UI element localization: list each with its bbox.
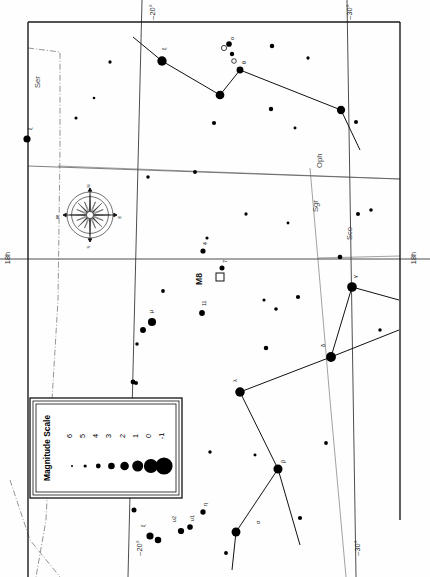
star-dot-s51[interactable] <box>205 236 208 239</box>
star-s22[interactable]: η <box>200 503 208 515</box>
star-s18[interactable]: ξ <box>140 524 154 540</box>
star-s40[interactable] <box>131 380 136 385</box>
star-dot-s32[interactable] <box>274 307 278 311</box>
star-dot-s21[interactable] <box>187 524 193 530</box>
star-dot-s47[interactable] <box>354 120 358 124</box>
star-s8[interactable]: γ <box>347 275 358 292</box>
star-s51[interactable] <box>205 236 208 239</box>
star-dot-s9[interactable] <box>326 352 336 362</box>
dso-M8[interactable]: M8 <box>194 273 224 285</box>
star-s53[interactable] <box>208 450 211 453</box>
star-dot-s29[interactable] <box>338 255 343 260</box>
star-dot-s6[interactable] <box>337 106 345 114</box>
star-s42[interactable] <box>244 212 247 215</box>
star-s24[interactable] <box>269 107 273 111</box>
star-s20[interactable]: υ2 <box>171 516 184 534</box>
star-s15[interactable]: 11 <box>199 300 207 315</box>
star-dot-s45[interactable] <box>298 516 302 520</box>
sky-map-canvas[interactable]: ξθοξγδλβσμ1147ξυ2υ1η M8 SerOphSgrSco –20… <box>0 0 430 577</box>
star-dot-s48[interactable] <box>74 116 77 119</box>
star-s17[interactable]: 7 <box>220 260 229 271</box>
star-dot-s31[interactable] <box>296 295 300 299</box>
star-s28[interactable] <box>356 212 360 216</box>
star-s48[interactable] <box>74 116 77 119</box>
star-s2[interactable] <box>216 91 225 100</box>
star-s38[interactable] <box>146 175 149 178</box>
star-s23[interactable] <box>132 508 137 513</box>
star-s41[interactable] <box>294 127 297 130</box>
star-s29[interactable] <box>338 255 343 260</box>
star-dot-s14[interactable] <box>140 327 146 333</box>
star-dot-s28[interactable] <box>356 212 360 216</box>
star-dot-s35[interactable] <box>135 342 138 345</box>
star-s43[interactable] <box>287 222 290 225</box>
star-dot-s22[interactable] <box>200 509 205 514</box>
star-s16[interactable]: 4 <box>200 242 208 254</box>
star-dot-s44[interactable] <box>324 441 328 445</box>
star-s33[interactable] <box>262 298 265 301</box>
star-dot-s11[interactable] <box>273 464 282 473</box>
star-dot-s33[interactable] <box>262 298 265 301</box>
star-dot-s23[interactable] <box>132 508 137 513</box>
star-s27[interactable] <box>306 56 309 59</box>
star-s54[interactable] <box>224 551 228 555</box>
star-s32[interactable] <box>274 307 278 311</box>
star-dot-s30[interactable] <box>264 346 269 351</box>
star-dot-s13[interactable] <box>148 318 156 326</box>
star-dot-s1[interactable] <box>157 56 166 65</box>
star-s52[interactable] <box>254 454 257 457</box>
star-dot-s19[interactable] <box>155 537 162 544</box>
star-s3[interactable]: θ <box>237 61 247 73</box>
star-s34[interactable] <box>161 289 165 293</box>
deep-sky-object-layer[interactable]: M8 <box>194 273 224 285</box>
star-s50[interactable] <box>93 97 96 100</box>
star-s13[interactable]: μ <box>148 310 156 326</box>
star-dot-s26[interactable] <box>270 44 275 49</box>
dso-symbol-M8[interactable] <box>216 273 224 281</box>
star-dot-s18[interactable] <box>146 532 153 539</box>
star-s14[interactable] <box>140 327 146 333</box>
star-dot-s24[interactable] <box>269 107 273 111</box>
star-dot-s3[interactable] <box>237 67 244 74</box>
star-dot-s37[interactable] <box>193 170 197 174</box>
star-dot-s43[interactable] <box>287 222 290 225</box>
star-dot-s25[interactable] <box>212 121 216 125</box>
star-s45[interactable] <box>298 516 302 520</box>
star-dot-s52[interactable] <box>254 454 257 457</box>
star-s5[interactable] <box>230 52 234 56</box>
star-dot-s16[interactable] <box>200 248 205 253</box>
star-s10[interactable]: λ <box>232 379 245 397</box>
star-dot-s12[interactable] <box>232 528 241 537</box>
star-s44[interactable] <box>324 441 328 445</box>
star-s26[interactable] <box>270 44 275 49</box>
star-dot-s8[interactable] <box>347 282 357 292</box>
star-s37[interactable] <box>193 170 197 174</box>
star-dot-s54[interactable] <box>224 551 228 555</box>
star-dot-s2[interactable] <box>216 91 225 100</box>
star-dot-s34[interactable] <box>161 289 165 293</box>
star-dot-s39[interactable] <box>369 208 373 212</box>
star-dot-s49[interactable] <box>108 60 111 63</box>
star-dot-s27[interactable] <box>306 56 309 59</box>
star-s1[interactable]: ξ <box>157 47 167 66</box>
star-s39[interactable] <box>369 208 373 212</box>
star-dot-s42[interactable] <box>244 212 247 215</box>
star-dot-s17[interactable] <box>220 266 225 271</box>
star-s11[interactable]: β <box>273 460 286 474</box>
star-s6[interactable] <box>337 106 345 114</box>
star-dot-s15[interactable] <box>199 310 205 316</box>
star-s35[interactable] <box>135 342 138 345</box>
star-dot-s10[interactable] <box>235 387 245 397</box>
star-dot-s40[interactable] <box>131 380 136 385</box>
star-s49[interactable] <box>108 60 111 63</box>
star-s19[interactable] <box>155 537 162 544</box>
star-s46[interactable] <box>378 328 381 331</box>
star-dot-s5[interactable] <box>230 52 234 56</box>
star-s12[interactable]: σ <box>232 520 261 536</box>
star-dot-s20[interactable] <box>178 528 184 534</box>
star-dot-s38[interactable] <box>146 175 149 178</box>
star-s9[interactable]: δ <box>320 344 336 362</box>
star-dot-s41[interactable] <box>294 127 297 130</box>
star-dot-s53[interactable] <box>208 450 211 453</box>
star-dot-s4[interactable] <box>226 41 232 47</box>
